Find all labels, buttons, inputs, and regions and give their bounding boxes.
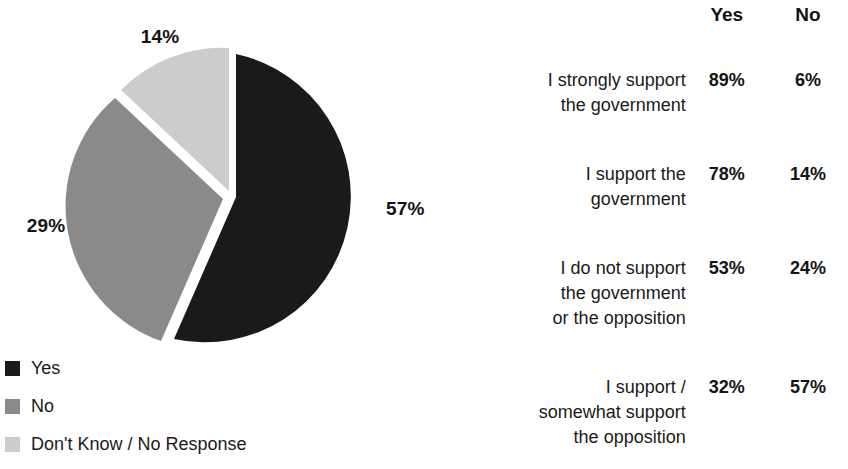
legend-swatch-dont-know (5, 437, 20, 452)
table-header-row: Yes No (470, 0, 848, 34)
table-row-yes-value: 78% (686, 162, 768, 212)
legend-label-no: No (31, 397, 54, 415)
pie-label-dont-know: 14% (112, 26, 208, 48)
legend-item-dont-know: Don't Know / No Response (5, 425, 425, 463)
table-header-blank (470, 0, 686, 34)
table-spacer (470, 118, 848, 162)
legend-swatch-no (5, 399, 20, 414)
table-row: I support the government 78% 14% (470, 162, 848, 212)
table-row-label: I support / somewhat support the opposit… (470, 375, 686, 450)
legend-item-no: No (5, 387, 425, 425)
pie-label-yes: 57% (386, 198, 462, 220)
pie-chart-panel: 14% 29% 57% Yes No Don't Know / No Respo… (0, 0, 470, 469)
table-row: I support / somewhat support the opposit… (470, 375, 848, 450)
table-row: I do not support the government or the o… (470, 256, 848, 331)
table-row-label: I support the government (470, 162, 686, 212)
legend-label-yes: Yes (31, 359, 60, 377)
table-row-label: I do not support the government or the o… (470, 256, 686, 331)
legend-item-yes: Yes (5, 349, 425, 387)
legend-swatch-yes (5, 361, 20, 376)
chart-legend: Yes No Don't Know / No Response (5, 349, 425, 463)
results-table: Yes No I strongly support the government… (470, 0, 848, 450)
results-table-panel: Yes No I strongly support the government… (470, 0, 848, 469)
table-row-yes-value: 89% (686, 68, 768, 118)
table-row-no-value: 6% (768, 68, 848, 118)
table-row: I strongly support the government 89% 6% (470, 68, 848, 118)
table-header-yes: Yes (686, 0, 768, 34)
table-spacer (470, 331, 848, 375)
pie-chart-graphic (0, 0, 470, 360)
legend-label-dont-know: Don't Know / No Response (31, 435, 247, 453)
table-row-no-value: 24% (768, 256, 848, 331)
table-spacer (470, 34, 848, 68)
table-spacer (470, 212, 848, 256)
table-row-no-value: 57% (768, 375, 848, 450)
table-row-no-value: 14% (768, 162, 848, 212)
table-header-no: No (768, 0, 848, 34)
table-row-label: I strongly support the government (470, 68, 686, 118)
table-row-yes-value: 32% (686, 375, 768, 450)
table-row-yes-value: 53% (686, 256, 768, 331)
pie-label-no: 29% (8, 215, 84, 237)
